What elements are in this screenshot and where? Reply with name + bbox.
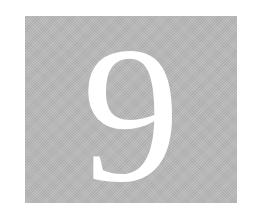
numeral-text: 9 [25,20,237,207]
number-tile: 9 [25,16,237,203]
